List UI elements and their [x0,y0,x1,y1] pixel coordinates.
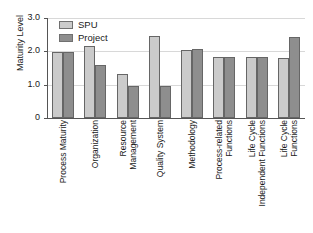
bar [213,57,224,118]
x-category-label-line: Process-related [214,120,224,180]
bar [289,37,300,118]
x-category-label-line: Life Cycle [279,120,289,157]
y-tick-label: 2.0 [18,46,40,55]
plot-area: SPU Project [47,18,305,118]
x-category-label: Life CycleIndependent Functions [247,120,267,230]
x-category-label-line: Functions [289,120,299,230]
x-category-label: Process Maturity [58,120,68,230]
x-category-label-line: Organization [90,120,100,168]
x-category-label: Organization [90,120,100,230]
bar [224,57,235,118]
bar [181,50,192,118]
bar [246,57,257,118]
bar [257,57,268,118]
y-tick-label: 1.0 [18,80,40,89]
x-category-label-line: Process Maturity [58,120,68,183]
legend-label-spu: SPU [78,20,98,30]
x-axis-category-labels: Process MaturityOrganizationResourceMana… [47,120,305,232]
y-axis-tick-labels: 01.02.03.0 [14,0,40,233]
y-tick-label: 0 [18,113,40,122]
bar [95,65,106,118]
bar [128,86,139,118]
y-tick-label: 3.0 [18,13,40,22]
x-category-label-line: Resource [118,120,128,156]
x-category-label: Quality System [155,120,165,230]
legend-swatch-spu [59,21,73,29]
x-category-label: Life CycleFunctions [279,120,299,230]
bar [63,52,74,118]
x-category-label-line: Independent Functions [257,120,267,230]
x-category-label-line: Methodology [187,120,197,169]
bar [117,74,128,118]
bar [278,58,289,118]
bar [160,86,171,118]
x-category-label: Methodology [187,120,197,230]
x-axis-line [47,118,305,119]
bar [84,46,95,118]
legend-label-project: Project [78,33,108,43]
bar [52,52,63,118]
x-category-label: Process-relatedFunctions [214,120,234,230]
x-category-label-line: Life Cycle [247,120,257,157]
x-category-label: ResourceManagement [118,120,138,230]
bar [192,49,203,118]
x-category-label-line: Quality System [155,120,165,177]
x-category-label-line: Functions [224,120,234,230]
legend-item-project: Project [59,32,108,43]
legend-swatch-project [59,34,73,42]
bar-chart: Maturity Level 01.02.03.0 SPU Project Pr… [0,0,313,233]
bar [149,36,160,118]
legend: SPU Project [59,19,108,43]
x-category-label-line: Management [128,120,138,230]
y-tick-mark [44,118,48,119]
legend-item-spu: SPU [59,19,108,30]
